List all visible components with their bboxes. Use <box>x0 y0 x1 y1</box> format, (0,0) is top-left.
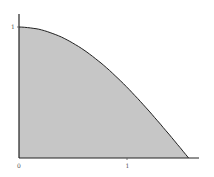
cosine-area-chart: 1 0 1 <box>0 0 214 177</box>
y-tick-label-1: 1 <box>11 23 15 30</box>
x-tick-label-0: 0 <box>17 162 21 169</box>
area-fill <box>19 27 189 158</box>
x-tick-label-1: 1 <box>126 162 130 169</box>
